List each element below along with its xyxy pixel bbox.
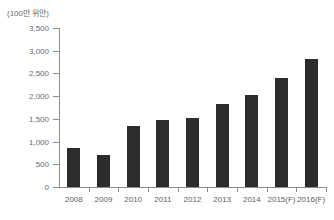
y-axis-tick-label: 2,000 bbox=[29, 92, 49, 101]
plot-area bbox=[59, 28, 326, 187]
bar bbox=[245, 95, 258, 187]
bar bbox=[67, 148, 80, 187]
x-axis-tick-label: 2008 bbox=[65, 195, 83, 204]
bar bbox=[216, 104, 229, 187]
x-axis-tick bbox=[178, 187, 179, 192]
bar-chart: (100만 위안) 05001,0001,5002,0002,5003,0003… bbox=[0, 0, 334, 220]
y-axis-tick-label: 1,000 bbox=[29, 137, 49, 146]
bar bbox=[305, 59, 318, 187]
x-axis-tick bbox=[118, 187, 119, 192]
x-axis-tick-label: 2009 bbox=[95, 195, 113, 204]
bar bbox=[156, 120, 169, 187]
y-axis-tick-label: 500 bbox=[36, 160, 49, 169]
y-axis-unit-label: (100만 위안) bbox=[7, 7, 49, 18]
x-axis-tick bbox=[326, 187, 327, 192]
x-axis-tick bbox=[296, 187, 297, 192]
y-axis-tick-label: 1,500 bbox=[29, 114, 49, 123]
x-axis-tick bbox=[148, 187, 149, 192]
bar bbox=[97, 155, 110, 187]
x-axis-tick-label: 2015(F) bbox=[267, 195, 295, 204]
x-axis-tick bbox=[89, 187, 90, 192]
x-axis-tick-label: 2010 bbox=[124, 195, 142, 204]
x-axis-tick-label: 2011 bbox=[154, 195, 171, 204]
x-axis-tick-label: 2016(F) bbox=[297, 195, 325, 204]
x-axis-tick-label: 2014 bbox=[243, 195, 261, 204]
x-axis-tick bbox=[207, 187, 208, 192]
bar bbox=[127, 126, 140, 187]
y-axis-tick-label: 2,500 bbox=[29, 69, 49, 78]
x-axis-tick bbox=[267, 187, 268, 192]
bar bbox=[275, 78, 288, 187]
y-axis-tick-label: 0 bbox=[45, 183, 49, 192]
x-axis-tick-label: 2013 bbox=[213, 195, 231, 204]
x-axis-tick-label: 2012 bbox=[184, 195, 202, 204]
y-axis-tick-label: 3,000 bbox=[29, 46, 49, 55]
bar bbox=[186, 118, 199, 187]
x-axis-line bbox=[59, 187, 326, 188]
y-axis-tick bbox=[53, 187, 59, 188]
y-axis-tick-label: 3,500 bbox=[29, 24, 49, 33]
x-axis-tick bbox=[237, 187, 238, 192]
